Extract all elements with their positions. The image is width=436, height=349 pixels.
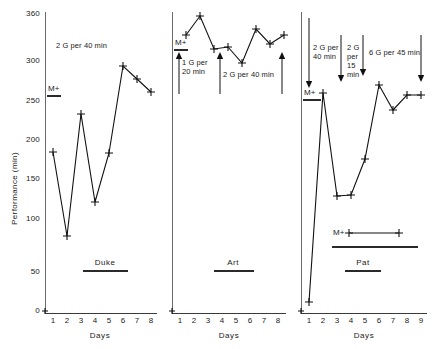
panel-pat-arrow-down-day4 [360,35,366,76]
panel-pat-origin-mark [298,308,304,314]
panel-pat-m-plus-bar [345,229,403,237]
panel-pat-arrow-down-day3 [338,35,344,82]
panel-pat-markers [305,81,425,306]
panel-pat-plot [0,0,436,349]
figure-root: Performance (min) 360 300 250 200 150 10… [0,0,436,349]
panel-pat-arrow-down-day1 [306,18,312,88]
panel-pat-arrows [306,18,424,88]
panel-pat-arrow-down-day9 [418,35,424,82]
panel-pat-series [305,81,425,306]
panel-pat-line [309,85,421,302]
